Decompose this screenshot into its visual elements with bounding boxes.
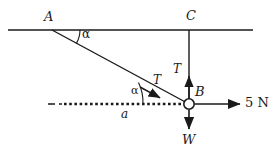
angle-arc-at-A: [76, 30, 80, 44]
label-angle-alpha-at-b: α: [131, 85, 138, 96]
label-weight: W: [182, 133, 195, 146]
label-point-c: C: [186, 9, 196, 22]
label-tension-vertical: T: [173, 63, 181, 75]
label-applied-force: 5 N: [245, 96, 269, 109]
physics-diagram-svg: [0, 0, 276, 160]
figure-canvas: A C α α T T B W a 5 N: [0, 0, 276, 160]
angle-arc-at-B: [139, 83, 144, 104]
label-acceleration: a: [121, 108, 128, 120]
label-point-b: B: [195, 85, 205, 98]
slant-string-AB: [52, 30, 189, 104]
label-angle-alpha-at-a: α: [82, 28, 90, 40]
body-node-B: [184, 99, 194, 109]
label-tension-slant: T: [153, 74, 161, 86]
label-point-a: A: [44, 10, 53, 23]
